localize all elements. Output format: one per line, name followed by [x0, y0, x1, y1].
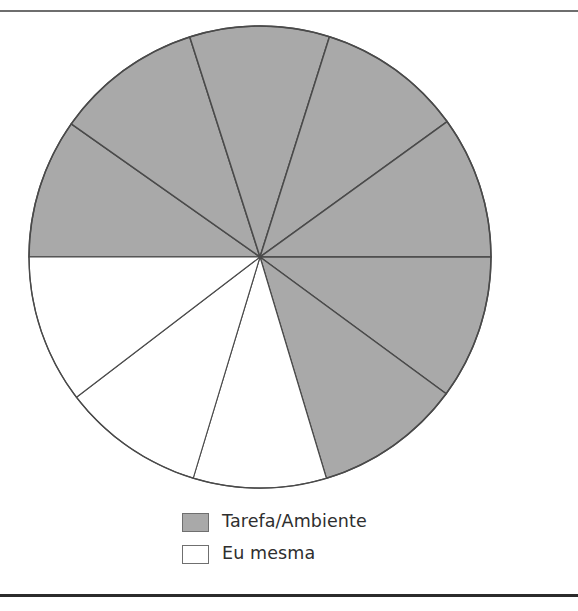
- pie-slice-group: [29, 26, 491, 488]
- chart-legend: Tarefa/Ambiente Eu mesma: [0, 506, 578, 570]
- legend-swatch-tarefa-ambiente: [182, 513, 209, 532]
- bottom-horizontal-rule: [0, 594, 578, 597]
- legend-item-eu-mesma: Eu mesma: [0, 538, 578, 570]
- pie-chart-figure: Tarefa/Ambiente Eu mesma: [0, 0, 578, 611]
- legend-label-eu-mesma: Eu mesma: [222, 545, 315, 563]
- pie-chart-plot-area: [0, 0, 578, 500]
- legend-label-tarefa-ambiente: Tarefa/Ambiente: [222, 513, 367, 531]
- legend-item-tarefa-ambiente: Tarefa/Ambiente: [0, 506, 578, 538]
- pie-chart-svg: [0, 0, 578, 500]
- legend-swatch-eu-mesma: [182, 545, 209, 564]
